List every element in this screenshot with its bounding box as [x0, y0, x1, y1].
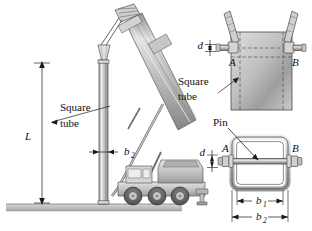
- label-point-a-bottom: A: [221, 142, 229, 154]
- label-point-a-top: A: [228, 56, 236, 68]
- label-b2-section: b: [256, 210, 262, 222]
- label-square-tube-detail-line1: Square: [178, 75, 209, 87]
- label-b1-sub: 1: [263, 200, 267, 209]
- label-point-b-bottom: B: [292, 142, 299, 154]
- label-pin-diameter-bottom: d: [200, 146, 206, 158]
- label-width-b2-main-sub: 2: [131, 151, 135, 160]
- label-b2-section-sub: 2: [263, 216, 267, 225]
- label-point-b-top: B: [292, 56, 299, 68]
- suspended-square-tube: [98, 60, 109, 204]
- label-length-L: L: [24, 130, 31, 142]
- truck-wheels: [124, 187, 189, 205]
- pin-shaft: [228, 159, 292, 165]
- figure-container: L b 2 Square tube: [0, 0, 312, 231]
- label-pin-diameter-top: d: [198, 39, 204, 51]
- label-pin: Pin: [213, 116, 228, 128]
- engineering-figure-svg: L b 2 Square tube: [0, 0, 312, 231]
- label-square-tube-main-line2: tube: [60, 117, 79, 129]
- label-square-tube-main-line1: Square: [60, 101, 91, 113]
- label-square-tube-detail-line2: tube: [178, 90, 197, 102]
- label-b1: b: [256, 194, 262, 206]
- label-width-b2-main: b: [124, 145, 130, 157]
